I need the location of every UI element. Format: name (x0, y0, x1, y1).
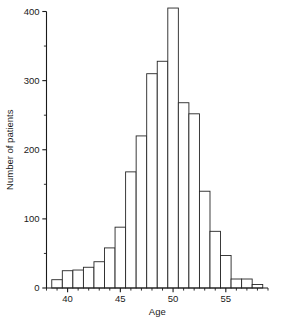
x-tick-label: 55 (221, 293, 232, 304)
y-tick-label: 0 (34, 282, 39, 293)
y-tick-label: 400 (24, 6, 40, 17)
x-tick-label: 45 (115, 293, 126, 304)
histogram-bar (221, 256, 232, 288)
x-tick-label: 50 (168, 293, 179, 304)
histogram-bar (147, 74, 158, 288)
y-tick-label: 100 (24, 213, 40, 224)
y-tick-label: 200 (24, 144, 40, 155)
histogram-bar (136, 136, 147, 288)
histogram-bar (105, 248, 116, 288)
histogram-bar (210, 231, 221, 288)
x-axis-title: Age (149, 306, 166, 317)
histogram-bar (189, 114, 200, 288)
histogram-canvas: 0100200300400 40455055 Age Number of pat… (0, 0, 281, 318)
histogram-bar (168, 8, 179, 288)
histogram-bar (126, 172, 137, 288)
y-axis-title: Number of patients (4, 109, 15, 190)
histogram-bar (73, 270, 84, 288)
histogram-bar (62, 271, 73, 288)
histogram-bar (178, 103, 189, 288)
histogram-bar (231, 279, 242, 288)
histogram-figure: 0100200300400 40455055 Age Number of pat… (0, 0, 281, 318)
histogram-bar (157, 61, 168, 288)
histogram-bar (115, 227, 126, 288)
histogram-bar (242, 279, 253, 288)
histogram-bar (94, 262, 105, 288)
x-tick-label: 40 (62, 293, 73, 304)
histogram-bar (83, 267, 94, 288)
y-tick-label: 300 (24, 75, 40, 86)
histogram-bar (52, 280, 63, 288)
histogram-bar (199, 191, 210, 288)
